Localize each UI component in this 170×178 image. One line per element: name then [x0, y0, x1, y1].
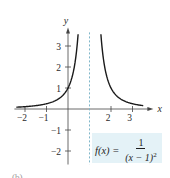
y-tick-label: 2: [56, 63, 61, 73]
y-tick-label: 1: [56, 84, 61, 94]
formula-denominator: (x − 1)2: [123, 149, 158, 164]
y-tick-label: −2: [51, 147, 61, 157]
y-tick-label: 3: [56, 42, 61, 52]
formula-numerator: 1: [136, 137, 145, 149]
denominator-exponent: 2: [153, 151, 157, 159]
denominator-base: (x − 1): [125, 152, 153, 163]
function-formula: f(x) = 1 (x − 1)2: [95, 137, 159, 164]
x-tick-label: −2: [17, 113, 27, 123]
x-axis-label: x: [156, 103, 162, 114]
y-tick-label: −1: [51, 126, 61, 136]
x-tick-label: 3: [127, 113, 132, 123]
figure-part-label: (b): [12, 172, 23, 178]
formula-lhs: f(x) =: [95, 145, 119, 156]
y-axis-label: y: [63, 15, 69, 26]
x-tick-label: −1: [38, 113, 48, 123]
x-tick-label: 2: [106, 113, 111, 123]
function-curve: [16, 34, 143, 107]
formula-fraction: 1 (x − 1)2: [123, 137, 158, 164]
